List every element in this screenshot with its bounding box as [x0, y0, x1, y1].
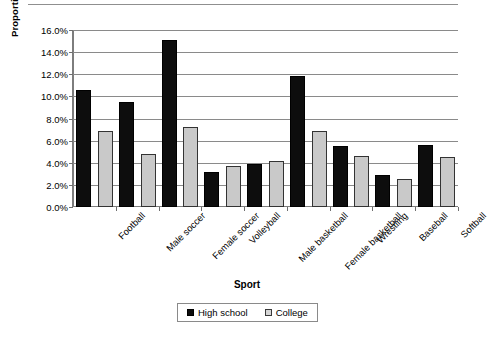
legend-entry: High school: [187, 307, 248, 318]
y-tick-label: 0.0%: [22, 202, 68, 213]
frame-top-rule: [28, 4, 458, 5]
black-square-icon: [187, 309, 194, 316]
chart-figure: Proportion of Total Injuries 16.0%14.0%1…: [0, 0, 494, 337]
bar-group: [287, 30, 330, 207]
y-tick-label: 6.0%: [22, 135, 68, 146]
bar: [312, 131, 327, 207]
bar: [204, 172, 219, 207]
x-tick-label: Male soccer: [164, 210, 208, 254]
bar: [76, 90, 91, 207]
plot-area: [73, 30, 458, 207]
bar-group: [244, 30, 287, 207]
bar-group: [372, 30, 415, 207]
x-tick-label: Football: [116, 210, 147, 241]
bar: [119, 102, 134, 207]
bar-group: [330, 30, 373, 207]
x-tick-label: Male basketball: [297, 210, 351, 264]
chart-legend: High schoolCollege: [177, 303, 318, 322]
bar-group: [201, 30, 244, 207]
legend-entry: College: [265, 307, 308, 318]
bar: [440, 157, 455, 207]
bar: [98, 131, 113, 207]
legend-label: High school: [198, 307, 248, 318]
bar-group: [415, 30, 458, 207]
y-axis-tick-labels: 16.0%14.0%12.0%10.0%8.0%6.0%4.0%2.0%0.0%: [16, 30, 68, 207]
x-axis-tick-labels: FootballMale soccerFemale soccerVolleyba…: [73, 210, 468, 270]
bar-group: [73, 30, 116, 207]
bar: [269, 161, 284, 207]
bar: [354, 156, 369, 207]
gray-square-icon: [265, 309, 272, 316]
x-axis-title: Sport: [0, 279, 494, 290]
bar: [247, 164, 262, 207]
y-tick-label: 4.0%: [22, 157, 68, 168]
bar: [333, 146, 348, 207]
bar: [397, 179, 412, 207]
y-tick-label: 2.0%: [22, 179, 68, 190]
bar: [183, 127, 198, 207]
bar: [375, 175, 390, 207]
y-tick-label: 8.0%: [22, 113, 68, 124]
bar: [141, 154, 156, 207]
y-tick-label: 10.0%: [22, 91, 68, 102]
legend-label: College: [276, 307, 308, 318]
bar: [290, 76, 305, 207]
bar: [418, 145, 433, 207]
y-tick-label: 12.0%: [22, 69, 68, 80]
y-tick-mark: [69, 207, 73, 208]
y-tick-label: 16.0%: [22, 25, 68, 36]
x-tick-label: Softball: [458, 210, 488, 240]
y-tick-label: 14.0%: [22, 47, 68, 58]
bar: [162, 40, 177, 207]
x-tick-label: Baseball: [416, 210, 449, 243]
bar-group: [159, 30, 202, 207]
bar-group: [116, 30, 159, 207]
bar: [226, 166, 241, 207]
